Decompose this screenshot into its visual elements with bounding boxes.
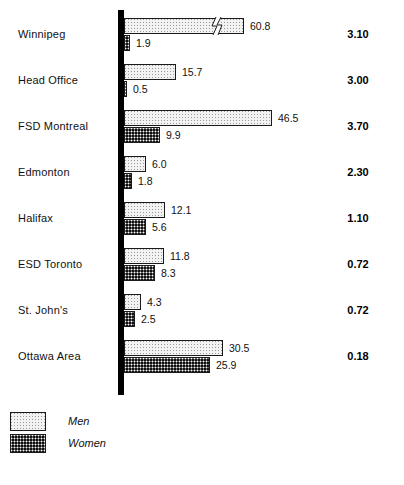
row-category-label: Ottawa Area bbox=[18, 350, 81, 362]
row-category-label: ESD Toronto bbox=[18, 258, 82, 270]
chart-row: St. John's4.32.50.72 bbox=[0, 290, 404, 336]
women-bar bbox=[124, 173, 132, 189]
women-bar bbox=[124, 35, 130, 51]
row-category-label: Winnipeg bbox=[18, 28, 65, 40]
men-value-label: 11.8 bbox=[170, 250, 190, 262]
chart-row: Edmonton6.01.82.30 bbox=[0, 152, 404, 198]
bar-chart: Winnipeg60.81.93.10Head Office15.70.53.0… bbox=[0, 0, 404, 400]
chart-row: ESD Toronto11.88.30.72 bbox=[0, 244, 404, 290]
row-category-label: St. John's bbox=[18, 304, 68, 316]
chart-row: Halifax12.15.61.10 bbox=[0, 198, 404, 244]
women-bar bbox=[124, 311, 135, 327]
women-value-label: 5.6 bbox=[152, 221, 167, 233]
legend-item-label: Men bbox=[68, 415, 89, 427]
men-bar bbox=[124, 110, 272, 126]
chart-row: Winnipeg60.81.93.10 bbox=[0, 14, 404, 60]
men-value-label: 12.1 bbox=[171, 204, 191, 216]
men-value-label: 30.5 bbox=[229, 342, 249, 354]
legend-item: Women bbox=[10, 434, 210, 456]
chart-legend: MenWomen bbox=[10, 412, 210, 456]
row-ratio-value: 3.10 bbox=[338, 28, 378, 40]
women-value-label: 1.9 bbox=[136, 37, 151, 49]
dark-checker-swatch bbox=[10, 434, 46, 453]
legend-item-label: Women bbox=[68, 437, 106, 449]
light-stipple-swatch bbox=[10, 412, 46, 431]
men-value-label: 46.5 bbox=[278, 112, 298, 124]
row-category-label: FSD Montreal bbox=[18, 120, 88, 132]
chart-row: Head Office15.70.53.00 bbox=[0, 60, 404, 106]
legend-item: Men bbox=[10, 412, 210, 434]
women-value-label: 0.5 bbox=[133, 83, 148, 95]
row-ratio-value: 0.18 bbox=[338, 350, 378, 362]
men-bar bbox=[124, 294, 141, 310]
men-bar bbox=[124, 202, 165, 218]
row-ratio-value: 3.70 bbox=[338, 120, 378, 132]
men-value-label: 4.3 bbox=[147, 296, 162, 308]
men-bar bbox=[124, 340, 223, 356]
women-bar bbox=[124, 219, 146, 235]
men-value-label: 15.7 bbox=[182, 66, 202, 78]
women-bar bbox=[124, 357, 210, 373]
chart-row: Ottawa Area30.525.90.18 bbox=[0, 336, 404, 382]
women-value-label: 8.3 bbox=[161, 267, 176, 279]
men-value-label: 6.0 bbox=[152, 158, 167, 170]
women-bar bbox=[124, 81, 127, 97]
row-category-label: Head Office bbox=[18, 74, 78, 86]
row-ratio-value: 0.72 bbox=[338, 304, 378, 316]
row-ratio-value: 2.30 bbox=[338, 166, 378, 178]
row-ratio-value: 1.10 bbox=[338, 212, 378, 224]
men-bar bbox=[124, 156, 146, 172]
women-bar bbox=[124, 265, 155, 281]
women-bar bbox=[124, 127, 160, 143]
women-value-label: 25.9 bbox=[216, 359, 236, 371]
women-value-label: 9.9 bbox=[166, 129, 181, 141]
row-ratio-value: 3.00 bbox=[338, 74, 378, 86]
men-value-label: 60.8 bbox=[250, 20, 270, 32]
men-bar bbox=[124, 248, 164, 264]
men-bar bbox=[124, 64, 176, 80]
women-value-label: 2.5 bbox=[141, 313, 156, 325]
row-category-label: Edmonton bbox=[18, 166, 70, 178]
chart-row: FSD Montreal46.59.93.70 bbox=[0, 106, 404, 152]
women-value-label: 1.8 bbox=[138, 175, 153, 187]
row-category-label: Halifax bbox=[18, 212, 53, 224]
men-bar bbox=[124, 18, 244, 34]
row-ratio-value: 0.72 bbox=[338, 258, 378, 270]
